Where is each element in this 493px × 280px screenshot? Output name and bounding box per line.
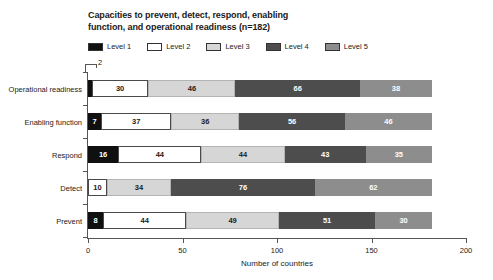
y-axis-tick <box>83 138 88 139</box>
y-axis-category-label-detect: Detect <box>60 183 82 192</box>
y-axis-tick <box>83 204 88 205</box>
bar-row-detect: 10 34 76 62 <box>88 179 432 196</box>
callout-label: 2 <box>98 58 102 67</box>
y-axis-tick <box>83 105 88 106</box>
x-axis-tick-label: 0 <box>86 246 90 255</box>
bar-row-respond: 16 44 44 43 35 <box>88 146 432 163</box>
legend-item-level-5: Level 5 <box>325 42 368 51</box>
legend-label-level-5: Level 5 <box>344 42 368 51</box>
x-axis-tick <box>277 238 278 243</box>
bar-segment-level-2: 44 <box>118 146 201 163</box>
y-axis-category-label-operational-readiness: Operational readiness <box>9 84 82 93</box>
x-axis-tick-label: 150 <box>365 246 378 255</box>
y-axis-tick <box>83 72 88 73</box>
bar-segment-level-1: 7 <box>88 113 101 130</box>
x-axis-tick-label: 50 <box>178 246 186 255</box>
legend-item-level-3: Level 3 <box>206 42 249 51</box>
callout-leader-vertical <box>85 64 86 72</box>
bar-segment-level-4: 56 <box>239 113 345 130</box>
y-axis-tick <box>83 171 88 172</box>
legend-label-level-2: Level 2 <box>166 42 190 51</box>
bar-segment-level-4: 43 <box>285 146 366 163</box>
bar-segment-level-5: 35 <box>366 146 432 163</box>
x-axis-tick-label: 100 <box>271 246 284 255</box>
x-axis-tick <box>466 238 467 243</box>
stacked-bar-chart: Capacities to prevent, detect, respond, … <box>0 0 493 280</box>
bar-segment-level-3: 46 <box>148 80 235 97</box>
bar-segment-level-1: 8 <box>88 212 103 229</box>
y-axis-category-label-prevent: Prevent <box>56 216 82 225</box>
chart-title: Capacities to prevent, detect, respond, … <box>88 10 388 33</box>
bar-segment-level-5: 30 <box>375 212 432 229</box>
bar-segment-level-5: 46 <box>345 113 432 130</box>
chart-legend: Level 1 Level 2 Level 3 Level 4 Level 5 <box>88 42 384 51</box>
x-axis-tick <box>372 238 373 243</box>
x-axis-title: Number of countries <box>88 259 466 268</box>
chart-title-line-1: Capacities to prevent, detect, respond, … <box>88 10 388 22</box>
x-axis-tick <box>183 238 184 243</box>
bar-row-enabling-function: 7 37 36 56 46 <box>88 113 432 130</box>
bar-row-prevent: 8 44 49 51 30 <box>88 212 432 229</box>
chart-title-line-2: function, and operational readiness (n=1… <box>88 22 388 34</box>
legend-label-level-3: Level 3 <box>225 42 249 51</box>
bar-segment-level-3: 44 <box>201 146 284 163</box>
bar-segment-level-5: 38 <box>360 80 432 97</box>
bar-row-operational-readiness: 2 30 46 66 38 <box>88 80 432 97</box>
plot-area: 0 50 100 150 200 Operational readiness E… <box>88 72 466 238</box>
legend-swatch-level-2 <box>147 43 162 51</box>
bar-segment-level-4: 51 <box>279 212 375 229</box>
legend-label-level-1: Level 1 <box>107 42 131 51</box>
y-axis-category-label-enabling-function: Enabling function <box>24 117 82 126</box>
legend-label-level-4: Level 4 <box>285 42 309 51</box>
bar-segment-level-4: 76 <box>171 179 315 196</box>
legend-swatch-level-5 <box>325 43 340 51</box>
legend-item-level-1: Level 1 <box>88 42 131 51</box>
legend-swatch-level-1 <box>88 43 103 51</box>
x-axis-tick <box>88 238 89 243</box>
bar-segment-level-2: 44 <box>103 212 186 229</box>
legend-item-level-4: Level 4 <box>266 42 309 51</box>
callout-leader-horizontal <box>85 64 96 65</box>
bar-segment-level-5: 62 <box>315 179 432 196</box>
bar-segment-level-2: 30 <box>92 80 149 97</box>
legend-swatch-level-3 <box>206 43 221 51</box>
legend-swatch-level-4 <box>266 43 281 51</box>
bar-segment-level-2: 37 <box>101 113 171 130</box>
bar-segment-level-3: 36 <box>171 113 239 130</box>
x-axis-tick-label: 200 <box>460 246 473 255</box>
bar-segment-level-3: 34 <box>107 179 171 196</box>
legend-item-level-2: Level 2 <box>147 42 190 51</box>
bar-segment-level-3: 49 <box>186 212 279 229</box>
callout-leader-vertical-2 <box>96 64 97 68</box>
bar-segment-level-2: 10 <box>88 179 107 196</box>
y-axis-category-label-respond: Respond <box>52 150 82 159</box>
bar-segment-level-1: 16 <box>88 146 118 163</box>
bar-segment-level-4: 66 <box>235 80 360 97</box>
